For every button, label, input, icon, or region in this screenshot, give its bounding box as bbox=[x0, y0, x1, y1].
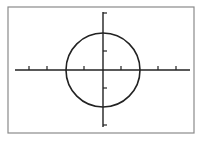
coordinate-axes bbox=[15, 12, 190, 127]
circle-graph bbox=[0, 0, 205, 142]
